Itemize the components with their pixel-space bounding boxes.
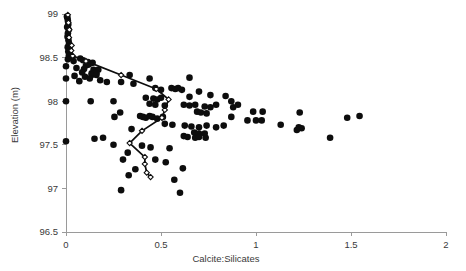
data-point [128,126,135,133]
data-point [111,114,118,121]
x-tick-group: 00.511.52 [63,232,448,250]
data-point [356,113,363,120]
data-point [192,101,199,108]
data-point [125,172,132,179]
data-point [228,114,235,121]
data-point [258,117,265,124]
chart-container: 96.59797.59898.59900.511.52Calcite:Silic… [0,0,466,271]
data-point [184,134,191,141]
data-point [146,75,153,82]
x-tick-label: 1.5 [344,239,357,250]
data-point [253,117,260,124]
data-point [294,127,301,134]
data-point [198,109,205,116]
data-point [139,142,146,149]
data-point [244,117,251,124]
data-point [203,110,210,117]
data-point [152,101,159,108]
data-point [188,123,195,130]
data-point [344,114,351,121]
trend-node-marker [142,161,147,166]
data-point [228,98,235,105]
y-tick-label: 99 [47,8,58,19]
data-point [162,121,169,128]
data-point [132,166,139,173]
data-point [186,94,193,101]
trend-node-marker [119,72,124,77]
data-point [235,101,242,108]
scatter-plot-svg: 96.59797.59898.59900.511.52Calcite:Silic… [0,0,466,271]
data-point [100,135,107,142]
data-point [65,56,72,63]
data-point [110,142,117,149]
data-point [327,135,334,142]
x-tick-label: 0.5 [154,239,167,250]
data-point [207,104,214,111]
y-tick-label: 96.5 [40,226,59,237]
data-point [179,87,186,94]
data-point [171,176,178,183]
x-tick-label: 2 [443,239,448,250]
data-point [147,144,154,151]
data-point [177,189,184,196]
data-point [110,98,117,105]
data-point [104,79,111,86]
y-tick-label: 97.5 [40,139,59,150]
data-point [186,74,193,81]
data-point [277,121,284,128]
data-point [181,101,188,108]
data-point [124,149,131,156]
data-point [169,121,176,128]
data-point [207,92,214,99]
data-point [63,98,70,105]
data-point [120,156,127,163]
data-point [180,165,187,172]
data-point [117,109,124,116]
data-point [202,135,209,142]
data-point [196,134,203,141]
data-point [118,79,125,86]
data-point [63,75,70,82]
x-axis-title: Calcite:Silicates [192,253,259,264]
x-tick-label: 1 [253,239,258,250]
y-tick-group: 96.59797.59898.599 [40,8,67,237]
data-point [296,109,303,116]
y-tick-label: 98.5 [40,52,59,63]
data-point [143,94,150,101]
data-point [203,122,210,129]
data-point [76,78,83,85]
x-tick-label: 0 [63,239,68,250]
data-point [162,159,169,166]
y-tick-label: 98 [47,96,58,107]
data-point [186,102,193,109]
data-point [220,122,227,129]
data-point [87,98,94,105]
data-point [222,93,229,100]
data-point [213,101,220,108]
data-point [91,135,98,142]
data-point [118,187,125,194]
data-point [201,103,208,110]
data-point [73,65,80,72]
data-point [97,77,104,84]
data-point [146,101,153,108]
data-point [259,108,266,115]
data-point [86,75,93,82]
data-point [152,156,159,163]
data-point [70,58,77,65]
data-point [166,145,173,152]
data-point [213,124,220,131]
scatter-series [63,13,363,196]
data-point [196,124,203,131]
data-point [63,138,70,145]
data-point [71,73,78,80]
data-point [196,88,203,95]
data-point [250,108,257,115]
data-point [63,63,70,70]
data-point [181,122,188,129]
y-axis-title: Elevation (m) [9,87,20,143]
y-tick-label: 97 [47,183,58,194]
